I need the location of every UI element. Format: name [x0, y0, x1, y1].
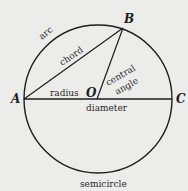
diameter-label: diameter [86, 103, 128, 113]
chord-label: chord [58, 45, 86, 68]
semicircle-label: semicircle [80, 179, 127, 189]
point-o-label: O [86, 86, 97, 100]
point-b-label: B [123, 12, 134, 26]
arc-label: arc [37, 24, 55, 41]
circle-parts-diagram: A B C O arc chord radius central angle d… [0, 0, 188, 191]
radius-label: radius [50, 88, 79, 98]
point-a-label: A [10, 92, 20, 106]
point-c-label: C [176, 92, 186, 106]
